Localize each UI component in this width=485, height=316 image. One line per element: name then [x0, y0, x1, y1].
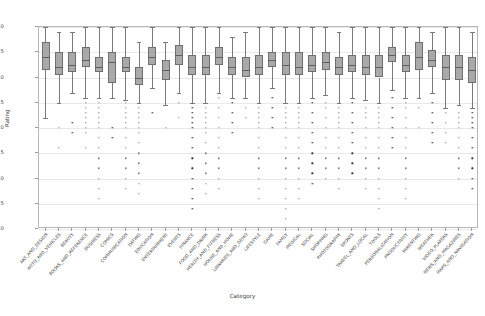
outlier-point	[258, 107, 259, 108]
whisker	[125, 27, 126, 57]
box	[348, 55, 356, 73]
outlier-point	[205, 193, 206, 194]
outlier-point	[138, 107, 139, 108]
outlier-point	[218, 97, 219, 98]
whisker-cap	[43, 27, 48, 28]
whisker-cap	[230, 37, 235, 38]
outlier-point	[205, 142, 206, 143]
outlier-point	[85, 107, 86, 108]
outlier-point	[285, 158, 286, 159]
outlier-point	[325, 137, 326, 138]
outlier-point	[312, 142, 313, 143]
outlier-point	[378, 117, 379, 118]
outlier-point	[72, 122, 73, 123]
outlier-point	[205, 132, 206, 133]
outlier-point	[325, 158, 326, 159]
whisker	[312, 72, 313, 97]
x-tick-mark	[178, 228, 179, 231]
whisker-cap	[243, 98, 248, 99]
outlier-point	[125, 137, 126, 138]
outlier-point	[445, 142, 446, 143]
outlier-point	[232, 132, 233, 133]
outlier-point	[98, 168, 99, 169]
outlier-point	[205, 173, 206, 174]
grid-line-horizontal	[39, 153, 477, 154]
outlier-point	[205, 163, 206, 164]
outlier-point	[205, 112, 206, 113]
outlier-point	[138, 183, 139, 184]
whisker-cap	[190, 27, 195, 28]
whisker	[99, 27, 100, 57]
outlier-point	[378, 188, 379, 189]
outlier-point	[365, 112, 366, 113]
whisker	[205, 27, 206, 55]
x-tick-mark	[258, 228, 259, 231]
median-line	[82, 60, 90, 61]
median-line	[295, 67, 303, 68]
whisker	[392, 27, 393, 47]
outlier-point	[392, 117, 393, 118]
whisker	[259, 75, 260, 103]
outlier-point	[138, 173, 139, 174]
grid-line-horizontal	[39, 204, 477, 205]
outlier-point	[298, 117, 299, 118]
median-line	[255, 67, 263, 68]
median-line	[122, 67, 130, 68]
whisker-cap	[470, 108, 475, 109]
plot-area	[38, 26, 478, 228]
outlier-point	[178, 117, 179, 118]
outlier-point	[125, 158, 126, 159]
outlier-point	[138, 142, 139, 143]
outlier-point	[352, 132, 353, 133]
box	[322, 52, 330, 70]
whisker-cap	[390, 90, 395, 91]
whisker	[139, 42, 140, 67]
outlier-point	[338, 137, 339, 138]
y-tick-label: 2.0	[0, 175, 4, 181]
outlier-point	[378, 112, 379, 113]
outlier-point	[458, 112, 459, 113]
whisker	[112, 27, 113, 52]
outlier-point	[325, 117, 326, 118]
whisker-cap	[177, 27, 182, 28]
outlier-point	[192, 208, 193, 209]
box	[228, 57, 236, 75]
x-tick-mark	[471, 228, 472, 231]
x-tick-mark	[458, 228, 459, 231]
whisker	[472, 83, 473, 108]
whisker	[419, 27, 420, 42]
whisker-cap	[310, 98, 315, 99]
outlier-point	[285, 107, 286, 108]
outlier-point	[405, 148, 406, 149]
outlier-point	[205, 117, 206, 118]
whisker	[432, 67, 433, 92]
whisker	[352, 27, 353, 55]
y-axis-label: Rating	[4, 110, 10, 127]
outlier-point	[218, 168, 219, 169]
whisker	[272, 67, 273, 87]
outlier-point	[312, 183, 313, 184]
whisker	[112, 83, 113, 98]
whisker	[459, 27, 460, 55]
median-line	[442, 67, 450, 68]
median-line	[108, 62, 116, 63]
outlier-point	[138, 117, 139, 118]
outlier-point	[298, 148, 299, 149]
outlier-point	[352, 163, 353, 164]
outlier-point	[285, 112, 286, 113]
outlier-point	[298, 107, 299, 108]
outlier-point	[85, 132, 86, 133]
median-line	[402, 65, 410, 66]
outlier-point	[472, 168, 473, 169]
whisker-cap	[350, 27, 355, 28]
outlier-point	[138, 122, 139, 123]
outlier-point	[258, 198, 259, 199]
whisker	[152, 65, 153, 88]
outlier-point	[192, 137, 193, 138]
outlier-point	[405, 198, 406, 199]
x-tick-mark	[311, 228, 312, 231]
whisker	[352, 72, 353, 97]
outlier-point	[378, 122, 379, 123]
box	[148, 47, 156, 65]
box	[308, 55, 316, 73]
